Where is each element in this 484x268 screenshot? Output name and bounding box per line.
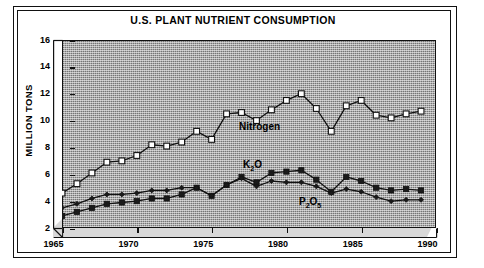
marker-filled-square xyxy=(389,188,394,193)
marker-diamond xyxy=(359,189,364,194)
marker-filled-square xyxy=(269,170,274,175)
marker-open-square xyxy=(403,111,409,117)
x-tick-label: 1985 xyxy=(330,239,376,249)
k2o-o: O xyxy=(254,159,262,170)
marker-diamond xyxy=(179,185,184,190)
marker-diamond xyxy=(89,196,94,201)
marker-filled-square xyxy=(134,199,139,204)
p2o5-5: 5 xyxy=(317,202,321,209)
marker-filled-square xyxy=(403,186,408,191)
marker-open-square xyxy=(328,128,334,134)
marker-filled-square xyxy=(119,200,124,205)
marker-diamond xyxy=(62,205,65,210)
marker-open-square xyxy=(224,111,230,117)
x-tick-mark xyxy=(437,228,438,233)
marker-open-square xyxy=(119,158,125,164)
marker-diamond xyxy=(269,179,274,184)
marker-open-square xyxy=(74,181,80,187)
marker-open-square xyxy=(269,107,275,113)
marker-open-square xyxy=(62,190,65,196)
marker-diamond xyxy=(314,184,319,189)
marker-open-square xyxy=(284,98,290,104)
marker-open-square xyxy=(209,136,215,142)
marker-filled-square xyxy=(374,185,379,190)
marker-open-square xyxy=(418,108,424,114)
marker-filled-square xyxy=(149,196,154,201)
marker-open-square xyxy=(298,91,304,97)
x-tick-label: 1980 xyxy=(255,239,301,249)
marker-filled-square xyxy=(62,213,65,218)
chart-figure: U.S. PLANT NUTRIENT CONSUMPTION MILLION … xyxy=(0,0,484,268)
marker-diamond xyxy=(104,192,109,197)
marker-filled-square xyxy=(74,209,79,214)
x-tick-label: 1990 xyxy=(405,239,451,249)
x-tick-mark xyxy=(63,228,64,233)
x-tick-mark xyxy=(137,228,138,233)
marker-diamond xyxy=(389,199,394,204)
series-nitrogen xyxy=(62,91,424,196)
x-tick-label: 1975 xyxy=(180,239,226,249)
marker-diamond xyxy=(164,188,169,193)
marker-diamond xyxy=(299,180,304,185)
marker-open-square xyxy=(239,110,245,116)
series-label-nitrogen: Nitrogen xyxy=(239,121,280,132)
marker-filled-square xyxy=(284,169,289,174)
marker-open-square xyxy=(388,115,394,121)
x-tick-mark xyxy=(212,228,213,233)
marker-diamond xyxy=(284,180,289,185)
marker-diamond xyxy=(74,201,79,206)
marker-diamond xyxy=(149,188,154,193)
marker-open-square xyxy=(343,103,349,109)
series-p2o5 xyxy=(62,176,424,211)
marker-open-square xyxy=(358,98,364,104)
marker-filled-square xyxy=(164,196,169,201)
x-tick-mark xyxy=(287,228,288,233)
marker-diamond xyxy=(344,187,349,192)
data-series-layer xyxy=(62,40,436,228)
marker-filled-square xyxy=(299,168,304,173)
marker-filled-square xyxy=(418,188,423,193)
x-tick-mark xyxy=(362,228,363,233)
plot-area: MILLION TONS 161412108642 19651970197519… xyxy=(0,0,484,268)
x-tick-label: 1965 xyxy=(31,239,77,249)
marker-filled-square xyxy=(359,178,364,183)
marker-open-square xyxy=(194,128,200,134)
marker-diamond xyxy=(404,197,409,202)
marker-filled-square xyxy=(314,177,319,182)
marker-open-square xyxy=(179,139,185,145)
series-k2o xyxy=(62,168,424,219)
marker-filled-square xyxy=(89,205,94,210)
series-label-p2o5: P2O5 xyxy=(299,196,321,209)
marker-diamond xyxy=(119,192,124,197)
marker-filled-square xyxy=(179,192,184,197)
x-tick-label: 1970 xyxy=(105,239,151,249)
marker-open-square xyxy=(134,153,140,159)
marker-diamond xyxy=(134,191,139,196)
p2o5-p: P xyxy=(299,196,306,207)
marker-diamond xyxy=(374,195,379,200)
marker-filled-square xyxy=(344,174,349,179)
marker-open-square xyxy=(164,143,170,149)
marker-open-square xyxy=(149,142,155,148)
series-label-k2o: K2O xyxy=(243,159,262,172)
marker-open-square xyxy=(104,159,110,165)
marker-open-square xyxy=(373,112,379,118)
marker-open-square xyxy=(313,106,319,112)
marker-filled-square xyxy=(104,201,109,206)
marker-open-square xyxy=(89,170,95,176)
marker-diamond xyxy=(419,197,424,202)
